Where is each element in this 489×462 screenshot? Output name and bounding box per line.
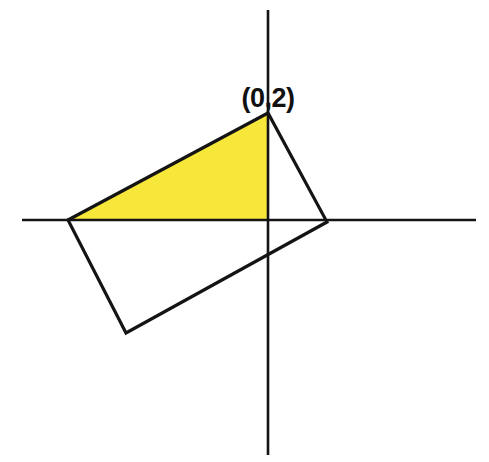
geometry-figure: (0,2): [0, 0, 489, 462]
rectangle-outline: [68, 113, 327, 333]
coordinate-plane-diagram: (0,2): [0, 0, 489, 462]
vertex-label-top: (0,2): [241, 83, 294, 113]
